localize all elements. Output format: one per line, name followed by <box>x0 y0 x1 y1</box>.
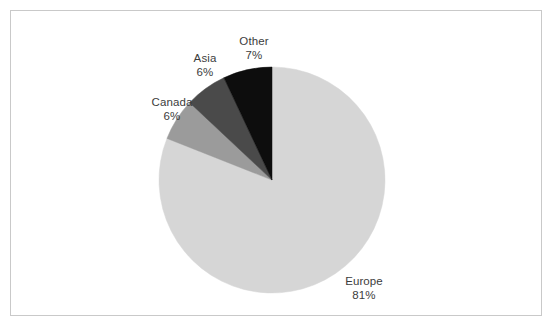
pie-chart-figure: Other 7% Asia 6% Canada 6% Europe 81% <box>0 0 554 328</box>
pie-label-canada: Canada 6% <box>141 96 203 123</box>
pie-label-asia: Asia 6% <box>177 52 233 79</box>
pie-label-canada-value: 6% <box>141 110 203 124</box>
pie-chart-plot-area: Other 7% Asia 6% Canada 6% Europe 81% <box>0 0 554 328</box>
pie-label-europe-name: Europe <box>330 275 398 289</box>
pie-label-canada-name: Canada <box>141 96 203 110</box>
pie-label-other-name: Other <box>223 35 285 49</box>
pie-label-europe-value: 81% <box>330 289 398 303</box>
pie-label-asia-name: Asia <box>177 52 233 66</box>
pie-label-asia-value: 6% <box>177 66 233 80</box>
pie-label-europe: Europe 81% <box>330 275 398 302</box>
